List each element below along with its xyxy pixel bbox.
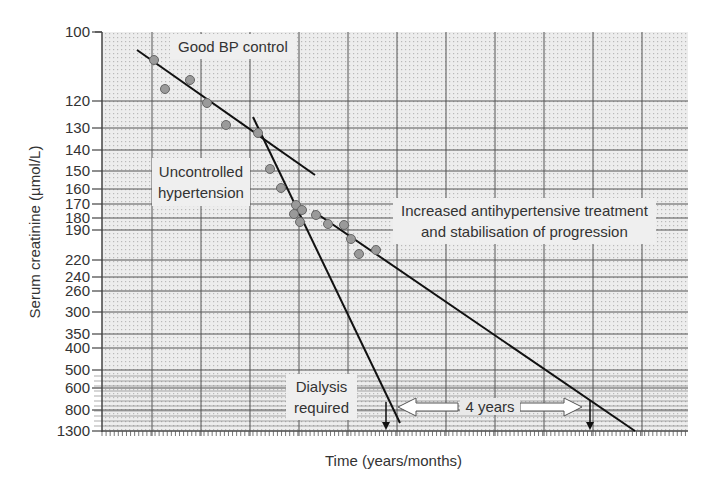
y-axis-label: Serum creatinine (µmol/L) (26, 146, 43, 319)
annotation-text-line2: hypertension (158, 182, 244, 203)
y-tick-label: 160 (0, 181, 90, 196)
y-tick-label: 600 (0, 380, 90, 395)
x-axis-label: Time (years/months) (325, 452, 462, 469)
y-axis-ticks (92, 32, 102, 431)
y-tick-label: 500 (0, 362, 90, 377)
annotation-four-years: 4 years (460, 398, 520, 415)
y-tick-label: 260 (0, 283, 90, 298)
y-tick-label: 400 (0, 340, 90, 355)
y-tick-label: 220 (0, 252, 90, 267)
annotation-increased-treatment: Increased antihypertensive treatment and… (393, 198, 656, 244)
y-tick-label: 120 (0, 93, 90, 108)
annotation-text-line2: and stabilisation of progression (401, 221, 648, 242)
y-tick-label: 100 (0, 24, 90, 39)
y-tick-label: 150 (0, 163, 90, 178)
annotation-text-line1: Uncontrolled (158, 161, 244, 182)
y-tick-label: 300 (0, 304, 90, 319)
y-tick-label: 190 (0, 222, 90, 237)
y-tick-label: 130 (0, 120, 90, 135)
annotation-uncontrolled-hypertension: Uncontrolled hypertension (152, 158, 250, 206)
y-tick-label: 140 (0, 142, 90, 157)
annotation-text-line1: Dialysis (294, 376, 349, 397)
annotation-text: Good BP control (178, 38, 288, 55)
annotation-text-line1: Increased antihypertensive treatment (401, 200, 648, 221)
annotation-dialysis-required: Dialysis required (286, 374, 357, 420)
y-tick-label: 1300 (0, 423, 90, 438)
annotation-good-bp-control: Good BP control (170, 34, 296, 59)
annotation-text-line2: required (294, 397, 349, 418)
y-tick-label: 800 (0, 402, 90, 417)
axes (95, 32, 102, 432)
